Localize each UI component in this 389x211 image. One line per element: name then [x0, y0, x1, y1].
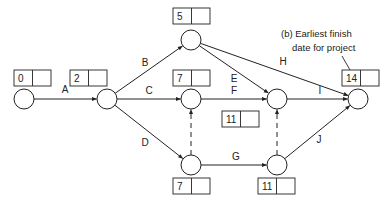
earliest-date-value: 7	[177, 73, 183, 84]
event-node	[181, 89, 201, 109]
activity-label-e: E	[231, 73, 238, 84]
earliest-date-value: 14	[346, 73, 358, 84]
annotation-leader-line	[342, 56, 350, 70]
activity-label-c: C	[145, 85, 152, 96]
earliest-date-value: 11	[226, 114, 237, 125]
event-node	[97, 89, 117, 109]
earliest-date-value: 0	[18, 73, 24, 84]
activity-label-a: A	[62, 84, 69, 95]
annotation-line-2: date for project	[292, 42, 356, 53]
activity-label-d: D	[141, 137, 148, 148]
event-node	[267, 89, 287, 109]
earliest-finish-annotation: (b) Earliest finish date for project	[281, 28, 356, 70]
event-node	[14, 89, 34, 109]
annotation-line-1: (b) Earliest finish	[281, 28, 352, 39]
activity-label-h: H	[279, 56, 286, 67]
activity-label-f: F	[231, 85, 237, 96]
activity-label-b: B	[142, 57, 149, 68]
event-node	[348, 89, 368, 109]
activity-arrow-j	[285, 106, 350, 159]
event-date-box: 11	[258, 178, 295, 194]
earliest-date-value: 2	[74, 73, 80, 84]
event-node	[181, 30, 201, 50]
activity-label-g: G	[232, 151, 240, 162]
earliest-date-value: 5	[177, 11, 183, 22]
event-node	[267, 155, 287, 175]
earliest-date-value: 7	[177, 181, 183, 192]
event-date-box: 2	[70, 70, 107, 86]
activity-arrow-d	[115, 105, 183, 158]
event-date-box: 7	[173, 70, 210, 86]
activity-label-i: I	[319, 85, 322, 96]
event-date-box: 5	[173, 8, 210, 24]
event-date-box: 7	[173, 178, 210, 194]
earliest-date-value: 11	[262, 181, 273, 192]
network-diagram: ABCDEFGHIJ 02571114711 (b) Earliest fini…	[0, 0, 389, 211]
event-node	[181, 155, 201, 175]
activity-label-j: J	[317, 134, 322, 145]
event-date-box: 0	[14, 70, 51, 86]
event-date-box: 11	[222, 111, 259, 127]
event-date-box: 14	[342, 70, 379, 86]
